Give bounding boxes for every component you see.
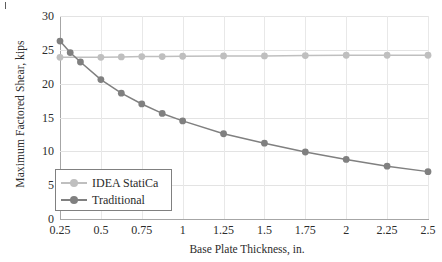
data-point-marker — [302, 149, 309, 156]
chart-legend: IDEA StatiCa Traditional — [55, 169, 172, 211]
data-point-marker — [220, 130, 227, 137]
data-point-marker — [179, 53, 186, 60]
x-axis-line — [60, 219, 429, 220]
x-tick-label: 0.25 — [50, 224, 71, 236]
legend-marker-icon — [61, 194, 87, 205]
y-tick-label: 25 — [42, 44, 54, 56]
page-edge-artifact — [5, 2, 6, 9]
y-tick-label: 10 — [42, 145, 54, 157]
data-point-marker — [179, 117, 186, 124]
y-tick-label: 5 — [48, 179, 54, 191]
x-tick-label: 2.5 — [421, 224, 436, 236]
shear-vs-thickness-chart: Maximum Factored Shear, kips 05101520253… — [0, 0, 442, 262]
legend-dot — [70, 196, 78, 204]
data-point-marker — [77, 59, 84, 66]
data-point-marker — [384, 52, 391, 59]
legend-marker-icon — [61, 177, 87, 188]
data-point-marker — [118, 54, 125, 61]
data-point-marker — [57, 54, 64, 61]
x-tick-label: 0.5 — [93, 224, 108, 236]
series-line — [60, 55, 428, 57]
data-point-marker — [159, 110, 166, 117]
data-point-marker — [57, 38, 64, 45]
data-point-marker — [159, 53, 166, 60]
legend-dot — [70, 179, 78, 187]
data-point-marker — [343, 156, 350, 163]
data-point-marker — [302, 52, 309, 59]
y-tick-label: 20 — [42, 78, 54, 90]
x-tick-label: 1.25 — [213, 224, 234, 236]
y-axis-title: Maximum Factored Shear, kips — [14, 0, 26, 229]
legend-item: Traditional — [61, 191, 166, 208]
x-tick-label: 2.25 — [377, 224, 398, 236]
gridline-vertical — [428, 16, 429, 219]
data-point-marker — [97, 54, 104, 61]
x-tick-label: 2 — [343, 224, 349, 236]
data-point-marker — [67, 49, 74, 56]
data-point-marker — [261, 53, 268, 60]
y-tick-label: 15 — [42, 112, 54, 124]
x-tick-label: 0.75 — [131, 224, 152, 236]
series-line — [60, 41, 428, 172]
data-point-marker — [384, 163, 391, 170]
data-point-marker — [138, 101, 145, 108]
x-axis-title: Base Plate Thickness, in. — [0, 243, 442, 255]
y-tick-label: 30 — [42, 10, 54, 22]
data-point-marker — [343, 52, 350, 59]
x-tick-label: 1.5 — [257, 224, 272, 236]
data-point-marker — [138, 53, 145, 60]
x-tick-label: 1.75 — [295, 224, 316, 236]
data-point-marker — [425, 52, 432, 59]
x-tick-label: 1 — [180, 224, 186, 236]
data-point-marker — [220, 53, 227, 60]
legend-item: IDEA StatiCa — [61, 174, 166, 191]
legend-label: IDEA StatiCa — [92, 177, 158, 189]
data-point-marker — [261, 140, 268, 147]
data-point-marker — [97, 76, 104, 83]
data-point-marker — [425, 168, 432, 175]
legend-label: Traditional — [92, 194, 145, 206]
data-point-marker — [118, 90, 125, 97]
